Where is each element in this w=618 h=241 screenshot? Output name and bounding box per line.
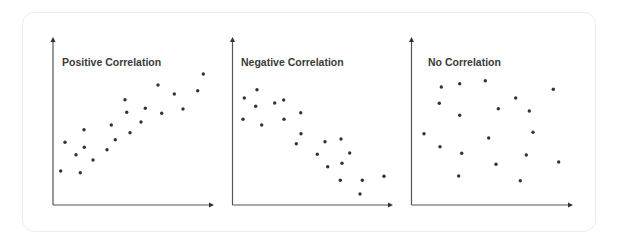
- data-point: [299, 132, 302, 135]
- chart-positive-correlation: Positive Correlation: [51, 37, 215, 208]
- data-point: [458, 114, 461, 117]
- data-point: [531, 131, 534, 134]
- data-point: [440, 85, 443, 88]
- data-point: [422, 132, 425, 135]
- data-point: [339, 179, 342, 182]
- data-point: [457, 174, 460, 177]
- chart-no-correlation: No Correlation: [409, 37, 573, 208]
- data-point: [114, 138, 117, 141]
- data-point: [438, 102, 441, 105]
- data-point: [125, 111, 128, 114]
- data-point: [487, 136, 490, 139]
- data-point: [323, 140, 326, 143]
- data-point: [326, 165, 329, 168]
- data-point: [458, 82, 461, 85]
- data-point: [528, 109, 531, 112]
- data-point: [316, 153, 319, 156]
- data-point: [295, 142, 298, 145]
- data-point: [79, 171, 82, 174]
- data-point: [460, 152, 463, 155]
- data-point: [519, 179, 522, 182]
- data-point: [83, 146, 86, 149]
- data-point: [128, 131, 131, 134]
- data-point: [557, 160, 560, 163]
- scatter-plots: Positive Correlation Negative Correlatio…: [0, 0, 618, 241]
- data-point: [160, 112, 163, 115]
- data-point: [358, 192, 361, 195]
- data-point: [494, 163, 497, 166]
- data-point: [525, 153, 528, 156]
- data-point: [254, 105, 257, 108]
- data-point: [273, 101, 276, 104]
- data-point: [282, 118, 285, 121]
- data-point: [241, 118, 244, 121]
- data-point: [156, 83, 159, 86]
- data-point: [105, 148, 108, 151]
- data-point: [63, 141, 66, 144]
- data-point: [361, 179, 364, 182]
- x-axis-arrow-icon: [209, 203, 214, 208]
- data-point: [339, 137, 342, 140]
- data-point: [110, 123, 113, 126]
- data-point: [438, 145, 441, 148]
- chart-title: Negative Correlation: [241, 56, 344, 68]
- data-point: [484, 79, 487, 82]
- data-point: [74, 153, 77, 156]
- x-axis-arrow-icon: [388, 203, 393, 208]
- y-axis-arrow-icon: [230, 37, 235, 42]
- y-axis-arrow-icon: [51, 37, 56, 42]
- data-point: [82, 128, 85, 131]
- data-point: [348, 151, 351, 154]
- data-point: [299, 111, 302, 114]
- data-point: [497, 107, 500, 110]
- data-point: [260, 123, 263, 126]
- data-point: [340, 162, 343, 165]
- data-point: [144, 107, 147, 110]
- data-point: [243, 96, 246, 99]
- data-point: [139, 120, 142, 123]
- chart-title: Positive Correlation: [62, 56, 161, 68]
- data-point: [282, 98, 285, 101]
- data-point: [514, 96, 517, 99]
- data-point: [173, 92, 176, 95]
- data-point: [382, 175, 385, 178]
- x-axis-arrow-icon: [568, 203, 573, 208]
- data-point: [552, 88, 555, 91]
- chart-negative-correlation: Negative Correlation: [230, 37, 393, 208]
- data-point: [59, 169, 62, 172]
- data-point: [181, 107, 184, 110]
- data-point: [202, 72, 205, 75]
- data-point: [255, 88, 258, 91]
- data-point: [91, 158, 94, 161]
- chart-title: No Correlation: [428, 56, 501, 68]
- y-axis-arrow-icon: [409, 37, 414, 42]
- data-point: [196, 89, 199, 92]
- data-point: [123, 98, 126, 101]
